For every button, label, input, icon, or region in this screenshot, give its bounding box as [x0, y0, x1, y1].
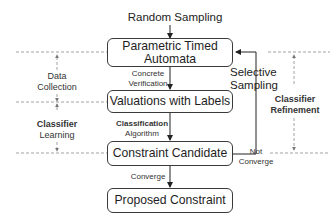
concrete-verification-label: Concrete Verification	[126, 69, 170, 89]
random-sampling-label: Random Sampling	[120, 11, 230, 23]
converge-label: Converge	[128, 172, 168, 182]
node-constraint-candidate: Constraint Candidate	[107, 141, 233, 166]
node-label-line2: Automata	[144, 53, 196, 66]
node-label: Constraint Candidate	[113, 147, 228, 160]
phase-label-line2: Learning	[28, 130, 86, 141]
phase-classifier-refinement: Classifier Refinement	[265, 94, 325, 116]
node-label: Valuations with Labels	[110, 95, 230, 108]
classification-algorithm-label: Classification Algorithm	[116, 119, 168, 139]
phase-label-line1: Classifier	[265, 94, 325, 105]
edge-label-line1: Classification	[116, 119, 168, 129]
node-label: Proposed Constraint	[114, 194, 225, 207]
edge-label-line2: Converge	[236, 157, 276, 167]
node-label-line1: Parametric Timed	[122, 40, 218, 53]
edge-label-line2: Algorithm	[116, 129, 168, 139]
node-valuations-with-labels: Valuations with Labels	[107, 90, 233, 113]
edge-label-line1: Not	[236, 147, 276, 157]
not-converge-label: Not Converge	[236, 147, 276, 167]
phase-label-line2: Refinement	[265, 105, 325, 116]
feedback-label-line1: Selective	[230, 66, 286, 79]
phase-data-collection: Data Collection	[28, 71, 86, 93]
node-parametric-timed-automata: Parametric Timed Automata	[107, 38, 233, 67]
edge-label-line2: Verification	[126, 79, 170, 89]
feedback-label-line2: Sampling	[230, 79, 286, 92]
selective-sampling-label: Selective Sampling	[230, 66, 286, 92]
phase-label-line1: Classifier	[28, 119, 86, 130]
edge-label-line1: Concrete	[126, 69, 170, 79]
node-proposed-constraint: Proposed Constraint	[107, 188, 233, 213]
phase-classifier-learning: Classifier Learning	[28, 119, 86, 141]
phase-label-line2: Collection	[28, 82, 86, 93]
phase-label-line1: Data	[28, 71, 86, 82]
